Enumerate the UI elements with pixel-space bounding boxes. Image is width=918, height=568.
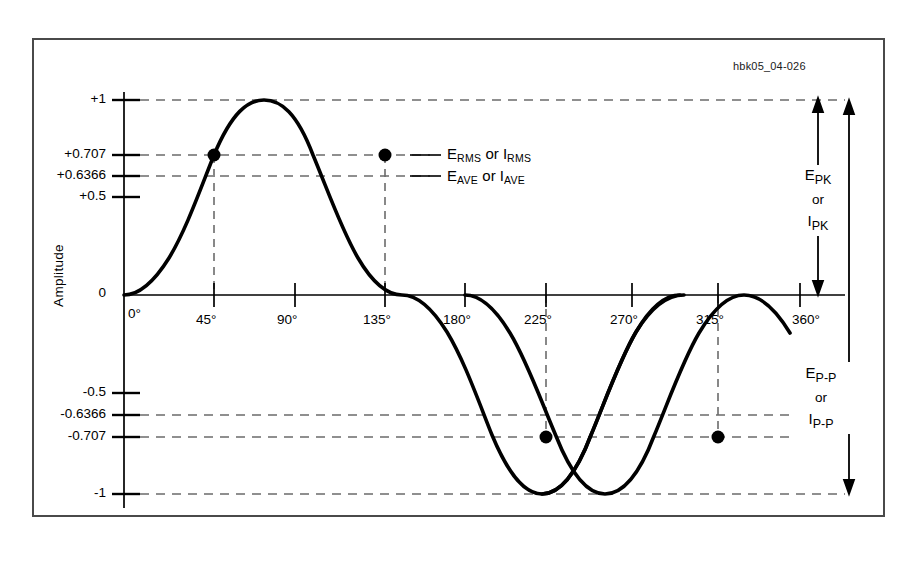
pp-e-subscript: P-P [816, 371, 837, 385]
pp-e-symbol: E [806, 364, 816, 381]
rms-annotation: ERMS or IRMS [447, 146, 531, 162]
x-tick-label-0: 0° [128, 306, 141, 321]
ave-e-symbol: E [447, 167, 457, 184]
x-tick-label-135: 135° [363, 312, 391, 327]
x-tick-label-225: 225° [524, 312, 552, 327]
y-tick-label-minus06366: -0.6366 [18, 406, 106, 421]
ave-i-subscript: AVE [504, 174, 525, 186]
peak-line-2: or [790, 190, 846, 210]
x-tick-label-180: 180° [443, 312, 471, 327]
dropline-group [214, 155, 718, 437]
ave-conjunction: or [478, 167, 500, 184]
y-tick-label-plus1: +1 [38, 91, 106, 106]
x-tick-label-315: 315° [696, 312, 724, 327]
x-tick-label-45: 45° [196, 312, 216, 327]
x-tick-label-360: 360° [792, 312, 820, 327]
ave-e-subscript: AVE [457, 174, 478, 186]
peak-line-1: EPK [790, 164, 846, 190]
y-tick-marks [112, 100, 140, 494]
y-tick-label-zero: 0 [60, 285, 106, 300]
peak-i-subscript: PK [812, 219, 829, 233]
ave-annotation: EAVE or IAVE [447, 168, 525, 184]
pp-i-subscript: P-P [813, 417, 834, 431]
rms-conjunction: or [481, 145, 503, 162]
sine-wave-plot [0, 0, 918, 568]
peak-e-subscript: PK [815, 173, 832, 187]
sine-curve [124, 100, 680, 494]
peak-to-peak-annotation: EP-P or IP-P [790, 362, 852, 434]
y-tick-label-minus05: -0.5 [38, 384, 106, 399]
peak-line-3: IPK [790, 210, 846, 236]
pp-line-2: or [790, 388, 852, 408]
y-tick-label-plus0707: +0.707 [25, 146, 106, 161]
x-tick-label-90: 90° [277, 312, 297, 327]
pp-line-1: EP-P [790, 362, 852, 388]
figure-canvas: hbk05_04-026 [0, 0, 918, 568]
pp-line-3: IP-P [790, 408, 852, 434]
y-tick-label-plus05: +0.5 [38, 188, 106, 203]
y-tick-label-minus0707: -0.707 [25, 428, 106, 443]
peak-e-symbol: E [805, 166, 815, 183]
y-tick-label-plus06366: +0.6366 [18, 167, 106, 182]
rms-e-symbol: E [447, 145, 457, 162]
y-tick-label-minus1: -1 [38, 485, 106, 500]
x-tick-label-270: 270° [610, 312, 638, 327]
y-axis-title: Amplitude [51, 216, 66, 336]
peak-annotation: EPK or IPK [790, 164, 846, 236]
rms-i-subscript: RMS [507, 152, 531, 164]
rms-e-subscript: RMS [457, 152, 481, 164]
